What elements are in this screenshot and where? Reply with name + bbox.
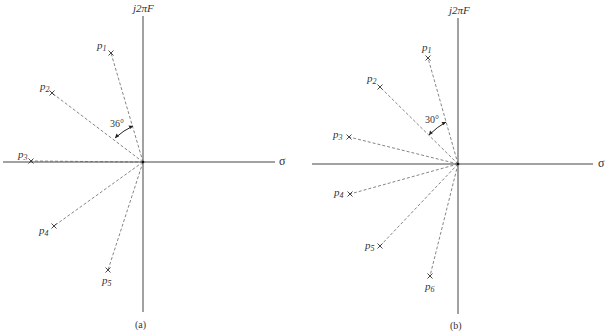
- figure-b-vertical-axis-label: j2πF: [449, 5, 470, 16]
- figure-a-origin-dot: [142, 161, 145, 164]
- figure-b-axes: [312, 18, 593, 314]
- figure-a-angle-label: 36°: [110, 119, 124, 129]
- figure-b-pole-label-5: p5: [365, 240, 375, 253]
- figure-b-origin-dot: [457, 163, 460, 166]
- figure-a-pole-label-2: p2: [40, 81, 50, 94]
- figure-a-pole-label-1: p1: [97, 40, 107, 53]
- figure-a-vertical-axis-label: j2πF: [133, 3, 154, 14]
- figure-b-pole-label-2: p2: [367, 73, 377, 86]
- figure-b-pole-markers: [347, 56, 433, 279]
- figure-b-pole-label-3: p3: [333, 129, 343, 142]
- figure-a-pole-label-4: p4: [39, 225, 49, 238]
- figure-a-axes: [3, 16, 275, 312]
- figure-b-caption: (b): [450, 321, 462, 331]
- figure-b-pole-label-1: p1: [422, 42, 432, 55]
- figure-b-pole-label-6: p6: [425, 281, 435, 294]
- figure-a-horizontal-axis-label: σ: [279, 155, 285, 167]
- figure-a-caption: (a): [135, 320, 146, 330]
- pole-diagram-canvas: [0, 0, 609, 336]
- figure-b-pole-label-4: p4: [334, 187, 344, 200]
- figure-b-angle-label: 30°: [425, 115, 439, 125]
- figure-b-horizontal-axis-label: σ: [598, 157, 604, 169]
- figure-a-pole-label-3: p3: [18, 149, 28, 162]
- figure-a-pole-label-5: p5: [102, 275, 112, 288]
